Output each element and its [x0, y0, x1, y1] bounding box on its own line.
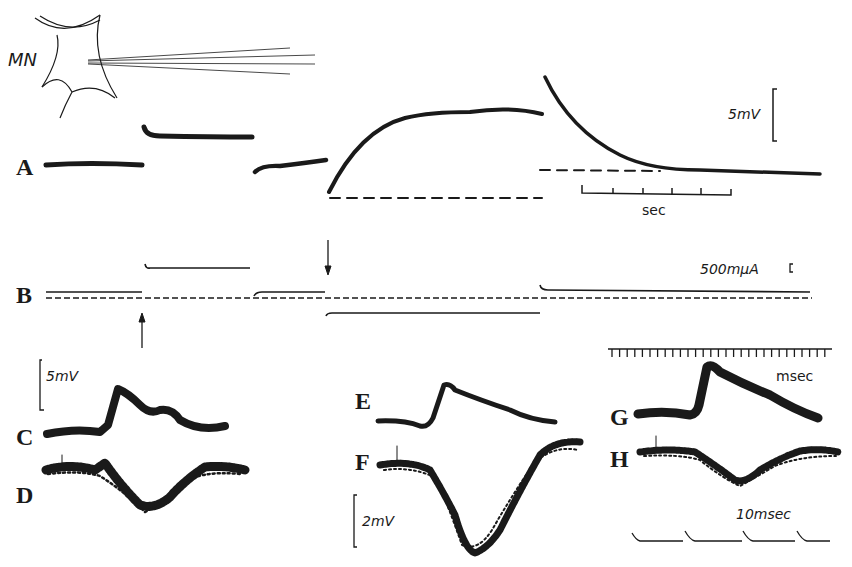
panel-label-e: E — [355, 389, 371, 413]
trace-B — [46, 264, 812, 316]
arrow-down-icon — [325, 240, 331, 275]
trace-E — [378, 385, 555, 427]
trace-D — [46, 455, 245, 512]
figure-drawing — [0, 0, 852, 567]
cell-label-mn: MN — [8, 51, 37, 69]
scale-label-sec: sec — [642, 203, 666, 217]
scale-label-5mv-a: 5mV — [728, 107, 760, 121]
figure: MN A B C D E F G H 5mV sec 500mμA 5mV 2m… — [0, 0, 852, 567]
scale-bar-5mv-A — [773, 89, 777, 141]
panel-label-b: B — [16, 283, 32, 307]
panel-label-f: F — [355, 450, 370, 474]
scale-bar-sec — [582, 185, 731, 195]
motoneuron-icon — [35, 15, 315, 118]
scale-label-500mua: 500mμA — [700, 262, 759, 276]
trace-F — [380, 442, 580, 553]
panel-label-g: G — [610, 405, 629, 429]
trace-H — [640, 436, 838, 486]
scale-label-msec: msec — [776, 369, 813, 383]
scale-label-2mv: 2mV — [362, 514, 394, 528]
scale-label-10msec: 10msec — [736, 507, 791, 521]
panel-label-h: H — [610, 447, 629, 471]
scale-bar-5mv-C — [40, 360, 44, 410]
scale-bar-500mua — [790, 264, 793, 272]
scale-label-5mv-c: 5mV — [46, 369, 78, 383]
scale-bar-msec-comb — [608, 349, 832, 357]
panel-label-c: C — [16, 425, 33, 449]
trace-C — [47, 389, 225, 434]
scale-bar-10msec — [632, 531, 830, 541]
trace-A — [46, 77, 820, 198]
arrow-up-icon — [139, 313, 145, 348]
panel-label-d: D — [16, 483, 33, 507]
panel-label-a: A — [16, 155, 33, 179]
scale-bar-2mv — [354, 495, 357, 547]
